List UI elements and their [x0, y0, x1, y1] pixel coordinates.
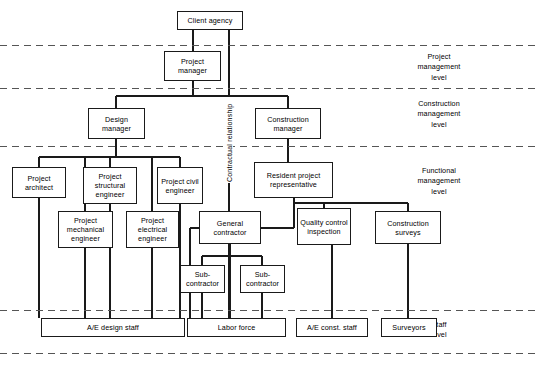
level-label-line-1: Project: [399, 52, 479, 62]
node-design-manager[interactable]: Design manager: [88, 108, 145, 139]
node-project-mechanical-engineer[interactable]: Project mechanical engineer: [58, 211, 113, 248]
level-label-line-2: management: [399, 176, 479, 186]
node-project-manager[interactable]: Project manager: [164, 51, 221, 81]
node-general-contractor[interactable]: General contractor: [199, 211, 261, 244]
node-label: Project structural engineer: [86, 172, 134, 199]
node-labor-force[interactable]: Labor force: [187, 318, 286, 337]
node-client-agency[interactable]: Client agency: [177, 11, 243, 30]
node-project-structural-engineer[interactable]: Project structural engineer: [83, 167, 137, 204]
level-label-line-1: Construction: [399, 99, 479, 109]
node-label: Quality control inspection: [300, 218, 348, 236]
node-construction-surveys[interactable]: Construction surveys: [375, 211, 441, 244]
level-label-line-3: level: [399, 187, 479, 197]
level-label-line-3: level: [399, 120, 479, 130]
node-ae-design-staff[interactable]: A/E design staff: [41, 318, 185, 337]
node-ae-const-staff[interactable]: A/E const. staff: [296, 318, 368, 337]
node-label: Project electrical engineer: [129, 216, 176, 243]
node-label: Client agency: [188, 16, 233, 25]
level-label-project-management: Project management level: [399, 52, 479, 83]
node-label: Surveyors: [392, 323, 425, 332]
level-label-functional-management: Functional management level: [399, 166, 479, 197]
node-label: Construction manager: [258, 115, 318, 133]
level-label-line-2: management: [399, 62, 479, 72]
node-label: Project manager: [167, 57, 218, 75]
node-label: General contractor: [202, 219, 258, 237]
node-label: Project mechanical engineer: [61, 216, 110, 243]
level-label-line-1: Functional: [399, 166, 479, 176]
node-label: A/E design staff: [87, 323, 139, 332]
organization-chart: Client agency Project manager Design man…: [0, 0, 536, 365]
node-label: Design manager: [91, 115, 142, 133]
level-label-construction-management: Construction management level: [399, 99, 479, 130]
node-label: Labor force: [218, 323, 255, 332]
node-label: Sub- contractor: [183, 270, 222, 288]
node-quality-control-inspection[interactable]: Quality control inspection: [297, 208, 351, 245]
node-project-civil-engineer[interactable]: Project civil engineer: [157, 167, 203, 204]
level-label-line-2: management: [399, 109, 479, 119]
node-resident-project-representative[interactable]: Resident project representative: [254, 162, 333, 198]
node-subcontractor-1[interactable]: Sub- contractor: [180, 265, 225, 293]
node-surveyors[interactable]: Surveyors: [381, 318, 437, 337]
node-project-electrical-engineer[interactable]: Project electrical engineer: [126, 211, 179, 248]
node-label: Resident project representative: [257, 171, 330, 189]
node-project-architect[interactable]: Project architect: [12, 167, 66, 198]
node-label: Sub- contractor: [243, 270, 282, 288]
node-label: Construction surveys: [378, 219, 438, 237]
node-construction-manager[interactable]: Construction manager: [255, 108, 321, 139]
node-subcontractor-2[interactable]: Sub- contractor: [240, 265, 285, 293]
node-label: Project civil engineer: [160, 177, 200, 195]
level-label-line-3: level: [399, 73, 479, 83]
annotation-contractual-relationship: Contractual relationship: [226, 103, 233, 183]
node-label: Project architect: [15, 174, 63, 192]
node-label: A/E const. staff: [307, 323, 357, 332]
